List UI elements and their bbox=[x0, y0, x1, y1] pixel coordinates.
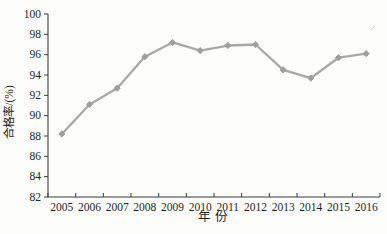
scan-artifact-mark bbox=[370, 26, 375, 30]
x-axis-tick-label: 2005 bbox=[50, 201, 73, 213]
y-axis-tick-label: 82 bbox=[30, 191, 42, 203]
pass-rate-line-chart: 8284868890929496981002005200620072008200… bbox=[0, 0, 387, 234]
x-axis-tick-label: 2012 bbox=[244, 201, 267, 213]
x-axis-tick-label: 2008 bbox=[133, 201, 156, 213]
data-point-marker bbox=[197, 48, 203, 54]
y-axis-tick-label: 100 bbox=[24, 8, 42, 20]
x-axis-tick-label: 2015 bbox=[327, 201, 350, 213]
data-point-marker bbox=[363, 51, 369, 57]
data-point-marker bbox=[225, 42, 231, 48]
y-axis-tick-label: 86 bbox=[30, 150, 42, 162]
x-axis-tick-label: 2009 bbox=[161, 201, 184, 213]
x-axis-tick-label: 2014 bbox=[299, 201, 322, 213]
y-axis-title: 合格率/(%) bbox=[2, 85, 16, 139]
x-axis-tick-label: 2007 bbox=[106, 201, 129, 213]
y-axis-tick-label: 90 bbox=[30, 109, 42, 121]
trend-line bbox=[62, 42, 366, 133]
y-axis-tick-label: 84 bbox=[30, 170, 42, 182]
y-axis-tick-label: 92 bbox=[30, 89, 42, 101]
y-axis-tick-label: 98 bbox=[30, 28, 42, 40]
x-axis-tick-label: 2013 bbox=[272, 201, 295, 213]
y-axis-tick-label: 88 bbox=[30, 130, 42, 142]
x-axis-title: 年 份 bbox=[198, 210, 227, 224]
y-axis-tick-label: 96 bbox=[30, 48, 42, 60]
x-axis-tick-label: 2016 bbox=[355, 201, 378, 213]
chart-generated-layer: 8284868890929496981002005200620072008200… bbox=[24, 8, 380, 213]
pass-rate-chart-figure: 8284868890929496981002005200620072008200… bbox=[0, 0, 387, 234]
y-axis-tick-label: 94 bbox=[30, 69, 42, 81]
axis-lines bbox=[48, 14, 380, 197]
x-axis-tick-label: 2006 bbox=[78, 201, 101, 213]
